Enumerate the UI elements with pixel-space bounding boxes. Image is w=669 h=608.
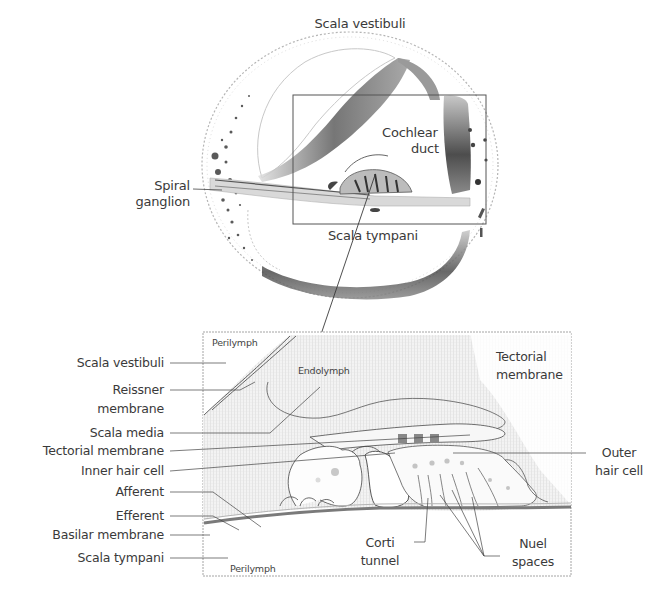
spiral-ganglion-bone	[212, 95, 254, 261]
label-spiral-ganglion-2: ganglion	[110, 194, 190, 210]
label-efferent: Efferent	[0, 508, 164, 523]
label-scala-vestibuli: Scala vestibuli	[0, 355, 164, 370]
label-nuel-2: spaces	[508, 554, 558, 569]
label-basilar-membrane: Basilar membrane	[0, 527, 164, 542]
label-perilymph-top: Perilymph	[212, 337, 258, 348]
label-cochlear-duct-1: Cochlear	[382, 125, 438, 141]
label-afferent: Afferent	[0, 484, 164, 499]
label-reissner-2: membrane	[0, 401, 164, 416]
label-scala-tympani-top: Scala tympani	[318, 228, 428, 244]
label-tectorial-membrane-left: Tectorial membrane	[0, 443, 164, 458]
label-scala-media: Scala media	[0, 425, 164, 440]
label-endolymph: Endolymph	[298, 365, 350, 376]
label-corti-2: tunnel	[350, 553, 410, 568]
label-reissner-1: Reissner	[0, 382, 164, 397]
inner-hair-cell-region	[288, 446, 362, 506]
label-outer-hair-2: hair cell	[584, 463, 654, 478]
label-scala-tympani: Scala tympani	[0, 550, 164, 565]
label-nuel-1: Nuel	[508, 536, 558, 551]
label-inner-hair-cell: Inner hair cell	[0, 463, 164, 478]
label-corti-1: Corti	[350, 535, 410, 550]
label-scala-vestibuli-top: Scala vestibuli	[305, 16, 415, 32]
label-outer-hair-1: Outer	[584, 445, 654, 460]
label-tectorial-1: Tectorial	[496, 349, 547, 364]
label-tectorial-2: membrane	[496, 367, 563, 382]
cochlea-cross-section	[193, 32, 498, 355]
stria-vascularis	[443, 95, 470, 194]
label-spiral-ganglion-1: Spiral	[110, 178, 190, 194]
label-cochlear-duct-2: duct	[411, 141, 439, 157]
label-perilymph-bottom: Perilymph	[230, 563, 276, 574]
